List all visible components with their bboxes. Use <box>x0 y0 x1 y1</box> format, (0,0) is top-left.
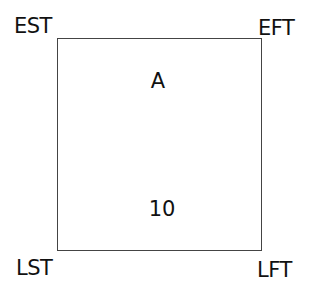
latest-finish-label: LFT <box>257 258 292 282</box>
activity-duration: 10 <box>132 197 192 221</box>
earliest-start-label: EST <box>14 14 52 38</box>
latest-start-label: LST <box>16 256 52 280</box>
earliest-finish-label: EFT <box>258 16 294 40</box>
activity-name: A <box>128 69 188 93</box>
